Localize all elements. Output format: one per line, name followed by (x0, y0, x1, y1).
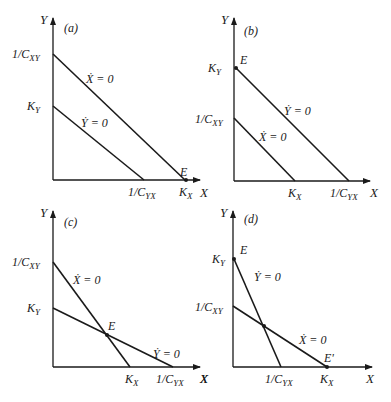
x-axis-label: X (369, 185, 379, 200)
y-isocline-label: Ẏ = 0 (254, 270, 281, 284)
equilibrium-point (105, 333, 109, 337)
y-isocline-label: Ẏ = 0 (81, 116, 108, 130)
y-isocline-label: Ẏ = 0 (284, 104, 311, 118)
panel-label: (d) (244, 212, 258, 226)
x-axis-label-a: X (199, 185, 209, 200)
panel-b: Y (b) X X KY 1/CXY KX 1/CYX Ẏ = 0 Ẋ = … (195, 12, 379, 202)
y-tick-1cxy: 1/CXY (12, 255, 41, 271)
panel-label: (a) (64, 21, 78, 35)
x-tick-1cyx: 1/CYX (128, 185, 156, 201)
equilibrium-point-e (232, 257, 236, 261)
equilibrium-label: E (179, 165, 188, 179)
x-tick-kx: KX (124, 372, 139, 388)
y-tick-1cxy: 1/CXY (12, 47, 41, 63)
panel-label: (c) (64, 215, 77, 229)
y-isocline-label: Ẏ = 0 (153, 347, 180, 361)
y-tick-1cxy: 1/CXY (195, 112, 224, 128)
x-axis-label: X (365, 371, 375, 386)
equilibrium-point (234, 66, 238, 70)
equilibrium-label-e: E (239, 243, 248, 257)
panel-label: (b) (244, 24, 258, 38)
y-tick-1cxy: 1/CXY (195, 300, 224, 316)
y-tick-ky: KY (207, 61, 222, 77)
x-tick-1cyx: 1/CYX (156, 372, 184, 388)
panel-a: Y (a) 1/CXY KY 1/CYX KX Ẋ = 0 Ẏ = 0 E (12, 12, 200, 201)
panel-c: Y (c) X 1/CXY KY KX 1/CYX Ẋ = 0 Ẏ = 0 … (12, 205, 209, 388)
x-isocline-label: Ẋ = 0 (298, 333, 326, 347)
isocline-figure: Y (a) 1/CXY KY 1/CYX KX Ẋ = 0 Ẏ = 0 E … (0, 0, 391, 402)
y-axis-label: Y (221, 12, 230, 27)
y-tick-ky: KY (211, 252, 226, 268)
equilibrium-label: E (239, 53, 248, 67)
x-isocline (53, 54, 185, 180)
x-axis-label-c: X (199, 371, 209, 386)
y-tick-ky: KY (26, 99, 41, 115)
unstable-intersection-point (262, 324, 266, 328)
equilibrium-label-e-prime: E' (323, 351, 334, 365)
x-tick-kx: KX (178, 185, 193, 201)
y-tick-ky: KY (26, 301, 41, 317)
x-isocline-label: Ẋ = 0 (258, 130, 286, 144)
x-isocline-label: Ẋ = 0 (85, 72, 113, 86)
y-isocline (236, 68, 349, 181)
y-axis-label: Y (40, 12, 49, 27)
x-tick-kx: KX (319, 372, 334, 388)
x-isocline-label: Ẋ = 0 (72, 273, 100, 287)
x-isocline (234, 118, 295, 181)
x-tick-kx: KX (287, 186, 302, 202)
panel-d: Y (d) X X KY 1/CXY 1/CYX KX Ẏ = 0 Ẋ = … (195, 205, 375, 388)
y-axis-label: Y (40, 205, 49, 220)
x-tick-1cyx: 1/CYX (265, 372, 293, 388)
y-axis-label: Y (220, 205, 229, 220)
equilibrium-point-e-prime (325, 365, 329, 369)
equilibrium-label: E (107, 319, 116, 333)
x-tick-1cyx: 1/CYX (330, 186, 358, 202)
